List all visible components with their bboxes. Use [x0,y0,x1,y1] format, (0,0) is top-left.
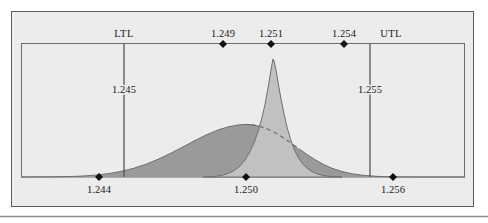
tick-label-1251: 1.251 [259,28,283,39]
tick-label-1250: 1.250 [234,184,258,195]
tick-label-1244: 1.244 [87,184,112,195]
capability-chart-figure: LTL UTL 1.245 1.255 1.249 1.251 1.254 1.… [0,0,488,223]
utl-label: UTL [380,28,402,39]
ltl-label: LTL [114,28,133,39]
distribution-chart-svg: LTL UTL 1.245 1.255 1.249 1.251 1.254 1.… [0,0,488,223]
ltl-value-label: 1.245 [112,84,136,95]
tick-label-1254: 1.254 [332,28,357,39]
tick-label-1256: 1.256 [381,184,405,195]
tick-label-1249: 1.249 [211,28,235,39]
utl-value-label: 1.255 [358,84,382,95]
